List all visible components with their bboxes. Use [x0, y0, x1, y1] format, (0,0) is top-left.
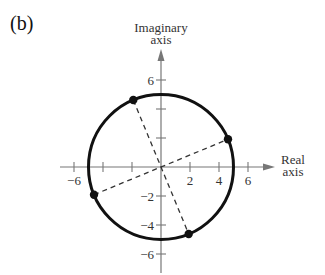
x-tick-label: 6: [245, 173, 252, 188]
y-tick-label: 6: [148, 73, 155, 88]
y-axis-title-line2: axis: [151, 32, 172, 47]
complex-plane-diagram: −62466−2−4−6 Imaginary axis Real axis: [0, 0, 325, 275]
y-tick-label: −6: [140, 247, 154, 262]
root-point: [184, 230, 192, 238]
x-tick-label: −6: [67, 173, 81, 188]
axis-titles: Imaginary axis Real axis: [134, 20, 305, 179]
x-tick-label: 4: [216, 173, 223, 188]
y-tick-label: −4: [140, 218, 154, 233]
imaginary-axis-arrow-icon: [158, 49, 165, 61]
x-tick-label: 2: [187, 173, 194, 188]
x-axis-title-line2: axis: [283, 164, 304, 179]
root-point: [90, 190, 98, 198]
real-axis-arrow-icon: [263, 164, 275, 171]
root-point: [129, 96, 137, 104]
root-point: [224, 135, 232, 143]
y-tick-label: −2: [140, 189, 154, 204]
